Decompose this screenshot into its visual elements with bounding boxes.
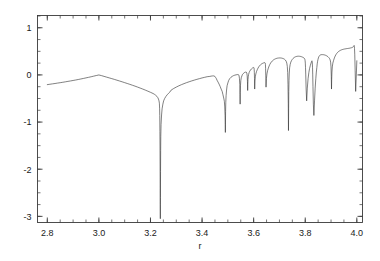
x-tick-label: 3.8 [299,228,312,238]
x-tick-label: 3.2 [144,228,157,238]
plot-frame [38,16,363,223]
x-tick-label: 4.0 [351,228,364,238]
y-tick-label: -1 [23,117,31,127]
figure-canvas: 2.83.03.23.43.63.84.010-1-2-3r [0,0,380,261]
data-line-lyapunov-exponent [47,45,357,218]
x-tick-label: 3.6 [247,228,260,238]
series-group [47,45,357,218]
minor-tick-group [38,16,363,223]
major-tick-group: 2.83.03.23.43.63.84.010-1-2-3 [23,16,363,238]
y-tick-label: 1 [26,23,31,33]
x-tick-label: 2.8 [41,228,54,238]
x-tick-label: 3.0 [93,228,106,238]
x-tick-label: 3.4 [196,228,209,238]
lyapunov-exponent-chart: 2.83.03.23.43.63.84.010-1-2-3r [0,0,380,261]
y-tick-label: -2 [23,165,31,175]
y-tick-label: -3 [23,212,31,222]
x-axis-title: r [199,241,202,251]
y-tick-label: 0 [26,70,31,80]
